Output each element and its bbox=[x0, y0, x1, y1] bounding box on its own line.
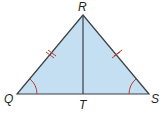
vertex-label-q: Q bbox=[4, 92, 13, 106]
vertex-label-r: R bbox=[78, 0, 87, 14]
vertex-label-t: T bbox=[79, 98, 88, 112]
triangle-diagram: R Q S T bbox=[0, 0, 165, 114]
vertex-label-s: S bbox=[151, 92, 159, 106]
